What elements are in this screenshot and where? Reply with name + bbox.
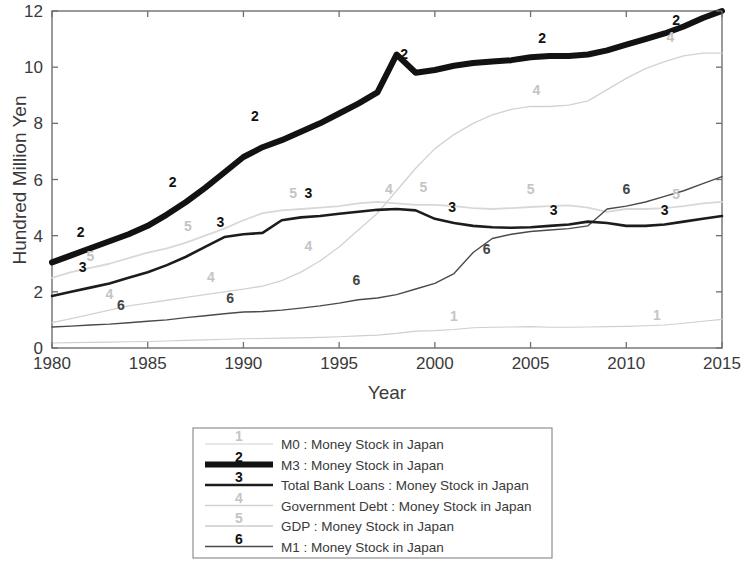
series-marker-label: 6 xyxy=(117,297,125,313)
series-marker-label: 5 xyxy=(289,185,297,201)
legend-label-2: M3 : Money Stock in Japan xyxy=(281,458,444,473)
series-marker-label: 5 xyxy=(527,181,535,197)
series-marker-label: 2 xyxy=(251,108,259,124)
series-marker-label: 2 xyxy=(400,46,408,62)
chart-figure: 2222223333336666644444455555511 19801985… xyxy=(0,0,745,563)
series-marker-label: 5 xyxy=(184,218,192,234)
y-tick-label: 8 xyxy=(34,114,43,133)
series-marker-label: 4 xyxy=(106,286,114,302)
legend-label-1: M0 : Money Stock in Japan xyxy=(281,437,444,452)
x-tick-label: 1985 xyxy=(129,354,167,373)
chart-legend: 1M0 : Money Stock in Japan2M3 : Money St… xyxy=(193,428,552,558)
legend-marker-3: 3 xyxy=(235,469,243,485)
legend-marker-2: 2 xyxy=(235,449,243,465)
legend-marker-4: 4 xyxy=(235,490,243,506)
x-tick-labels: 19801985199019952000200520102015 xyxy=(33,354,741,373)
x-tick-label: 1990 xyxy=(225,354,263,373)
y-tick-label: 0 xyxy=(34,339,43,358)
series-marker-label: 6 xyxy=(483,241,491,257)
x-tick-label: 2005 xyxy=(512,354,550,373)
legend-label-6: M1 : Money Stock in Japan xyxy=(281,540,444,555)
legend-label-4: Government Debt : Money Stock in Japan xyxy=(281,499,532,514)
series-marker-label: 5 xyxy=(672,186,680,202)
x-tick-label: 2000 xyxy=(416,354,454,373)
series-marker-label: 2 xyxy=(77,224,85,240)
series-marker-label: 1 xyxy=(450,308,458,324)
series-marker-label: 6 xyxy=(226,290,234,306)
y-tick-label: 12 xyxy=(24,2,43,21)
series-marker-label: 6 xyxy=(622,181,630,197)
series-marker-label: 3 xyxy=(305,185,313,201)
x-tick-label: 2010 xyxy=(607,354,645,373)
series-marker-label: 4 xyxy=(385,181,393,197)
legend-label-3: Total Bank Loans : Money Stock in Japan xyxy=(281,478,529,493)
y-tick-label: 2 xyxy=(34,283,43,302)
series-marker-label: 3 xyxy=(661,202,669,218)
x-tick-label: 1995 xyxy=(320,354,358,373)
series-marker-label: 6 xyxy=(352,272,360,288)
y-axis-title: Hundred Million Yen xyxy=(9,95,30,264)
series-marker-label: 3 xyxy=(550,202,558,218)
y-tick-label: 10 xyxy=(24,58,43,77)
series-marker-label: 1 xyxy=(653,307,661,323)
series-marker-label: 4 xyxy=(305,238,313,254)
series-marker-label: 2 xyxy=(672,12,680,28)
series-marker-label: 5 xyxy=(419,179,427,195)
legend-label-5: GDP : Money Stock in Japan xyxy=(281,519,454,534)
legend-marker-6: 6 xyxy=(235,531,243,547)
x-tick-label: 2015 xyxy=(703,354,741,373)
plot-frame xyxy=(52,11,722,348)
series-marker-label: 3 xyxy=(448,199,456,215)
series-marker-label: 4 xyxy=(207,269,215,285)
series-marker-label: 5 xyxy=(86,248,94,264)
y-tick-label: 6 xyxy=(34,171,43,190)
series-marker-label: 2 xyxy=(538,30,546,46)
series-marker-label: 3 xyxy=(217,214,225,230)
legend-marker-5: 5 xyxy=(235,510,243,526)
y-tick-label: 4 xyxy=(34,227,43,246)
money-stock-line-chart: 2222223333336666644444455555511 19801985… xyxy=(0,0,745,563)
x-axis-title: Year xyxy=(368,382,407,403)
legend-marker-1: 1 xyxy=(235,428,243,444)
series-marker-label: 4 xyxy=(666,29,674,45)
series-marker-label: 4 xyxy=(532,82,540,98)
series-marker-label: 2 xyxy=(169,174,177,190)
